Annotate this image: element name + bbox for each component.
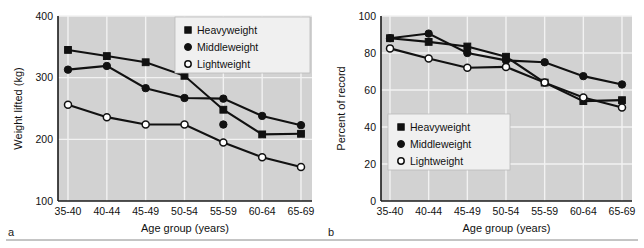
- x-axis-tick-label: 55-59: [531, 205, 558, 217]
- data-point-marker-middleweight-extra: [220, 121, 227, 128]
- data-point-marker-heavyweight: [619, 97, 626, 104]
- y-axis-tick-label: 40: [364, 121, 376, 133]
- legend-label: Heavyweight: [197, 24, 257, 36]
- data-point-marker-lightweight: [259, 154, 266, 161]
- y-axis-tick-label: 300: [35, 71, 53, 83]
- y-axis-tick-label: 0: [370, 195, 376, 207]
- data-point-marker-lightweight: [220, 139, 227, 146]
- data-point-marker-lightweight: [425, 55, 432, 62]
- data-point-marker-lightweight: [387, 45, 394, 52]
- x-axis-tick-label: 35-40: [55, 205, 82, 217]
- data-point-marker-lightweight: [541, 79, 548, 86]
- data-point-marker-lightweight: [619, 104, 626, 111]
- legend-label: Middleweight: [197, 41, 258, 53]
- panel-letter-a: a: [8, 226, 15, 238]
- y-axis-title: Percent of record: [335, 66, 347, 150]
- legend-label: Lightweight: [410, 155, 463, 167]
- chart-legend: HeavyweightMiddleweightLightweight: [388, 114, 510, 170]
- data-point-marker-heavyweight: [181, 72, 188, 79]
- data-point-marker-heavyweight: [103, 53, 110, 60]
- data-point-marker-middleweight: [220, 95, 227, 102]
- data-point-marker-lightweight: [503, 63, 510, 70]
- y-axis-tick-label: 400: [35, 10, 53, 22]
- data-point-marker-middleweight: [64, 66, 71, 73]
- data-point-marker-lightweight: [142, 121, 149, 128]
- x-axis-tick-label: 50-54: [171, 205, 198, 217]
- data-point-marker-middleweight: [464, 49, 471, 56]
- legend-label: Lightweight: [197, 58, 250, 70]
- data-point-marker-heavyweight: [298, 130, 305, 137]
- legend-marker-lightweight: [398, 158, 404, 164]
- x-axis-tick-label: 55-59: [210, 205, 237, 217]
- y-axis-tick-label: 100: [35, 195, 53, 207]
- x-axis-tick-label: 65-69: [609, 205, 636, 217]
- legend-marker-lightweight: [185, 61, 191, 67]
- chart-legend: HeavyweightMiddleweightLightweight: [175, 17, 310, 73]
- x-axis-tick-label: 60-64: [249, 205, 276, 217]
- panel-letter-b: b: [328, 226, 334, 238]
- y-axis-tick-label: 200: [35, 133, 53, 145]
- data-point-marker-lightweight: [181, 121, 188, 128]
- y-axis-tick-label: 60: [364, 84, 376, 96]
- data-point-marker-heavyweight: [142, 59, 149, 66]
- data-point-marker-middleweight: [580, 72, 587, 79]
- legend-label: Middleweight: [410, 138, 471, 150]
- legend-label: Heavyweight: [410, 121, 470, 133]
- y-axis-title: Weight lifted (kg): [12, 67, 24, 149]
- legend-marker-middleweight: [398, 141, 405, 148]
- data-point-marker-middleweight: [103, 62, 110, 69]
- y-axis-tick-label: 100: [358, 10, 376, 22]
- data-point-marker-lightweight: [298, 164, 305, 171]
- x-axis-tick-label: 40-44: [93, 205, 120, 217]
- x-axis-tick-label: 50-54: [493, 205, 520, 217]
- data-point-marker-heavyweight: [65, 47, 72, 54]
- data-point-marker-middleweight: [425, 30, 432, 37]
- data-point-marker-heavyweight: [425, 39, 432, 46]
- data-point-marker-middleweight: [142, 84, 149, 91]
- data-point-marker-lightweight: [103, 114, 110, 121]
- x-axis-tick-label: 45-49: [132, 205, 159, 217]
- x-axis-tick-label: 60-64: [570, 205, 597, 217]
- y-axis-tick-label: 20: [364, 158, 376, 170]
- data-point-marker-lightweight: [65, 101, 72, 108]
- x-axis-tick-label: 45-49: [454, 205, 481, 217]
- data-point-marker-middleweight: [297, 121, 304, 128]
- data-point-marker-middleweight: [386, 35, 393, 42]
- data-point-marker-middleweight: [618, 81, 625, 88]
- data-point-marker-middleweight: [541, 59, 548, 66]
- data-point-marker-lightweight: [464, 64, 471, 71]
- x-axis-title: Age group (years): [462, 222, 550, 234]
- x-axis-tick-label: 40-44: [415, 205, 442, 217]
- data-point-marker-lightweight: [580, 94, 587, 101]
- legend-marker-heavyweight: [398, 124, 404, 130]
- data-point-marker-heavyweight: [259, 131, 266, 138]
- x-axis-title: Age group (years): [141, 222, 229, 234]
- data-point-marker-middleweight: [258, 112, 265, 119]
- x-axis-tick-label: 65-69: [288, 205, 315, 217]
- legend-marker-middleweight: [185, 44, 192, 51]
- figure-root: 10020030040035-4040-4445-4950-5455-5960-…: [0, 0, 644, 248]
- y-axis-tick-label: 80: [364, 47, 376, 59]
- data-point-marker-heavyweight: [220, 106, 227, 113]
- x-axis-tick-label: 35-40: [377, 205, 404, 217]
- legend-marker-heavyweight: [185, 27, 191, 33]
- data-point-marker-middleweight: [181, 94, 188, 101]
